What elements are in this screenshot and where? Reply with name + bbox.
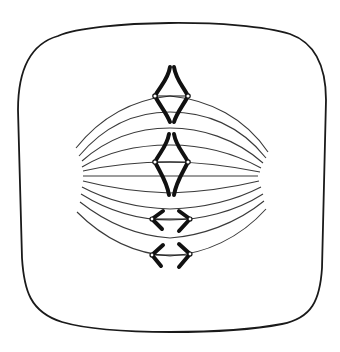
chromosome-1 <box>153 67 190 122</box>
chromosome-3 <box>150 211 192 231</box>
cell-membrane <box>18 23 326 332</box>
spindle-fibers-right <box>170 96 268 256</box>
chromosome-2 <box>153 134 190 195</box>
cell-division-diagram: Cell in metaphase with spindle fibers an… <box>0 0 340 352</box>
chromosome-4 <box>150 244 192 267</box>
spindle-fibers-left <box>76 96 170 256</box>
